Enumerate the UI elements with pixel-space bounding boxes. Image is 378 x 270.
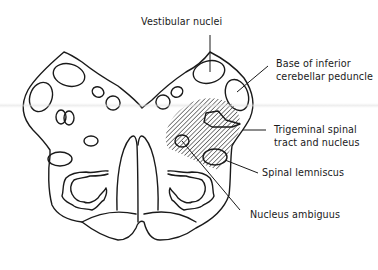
- label-spinal-lemniscus: Spinal lemniscus: [262, 167, 344, 179]
- label-trigeminal-line2: tract and nucleus: [274, 137, 360, 149]
- left-small-nucleus-1: [90, 85, 105, 99]
- basal-arc-left: [82, 212, 136, 222]
- right-inferior-olive: [168, 171, 214, 210]
- left-spinal-lemniscus: [48, 152, 72, 166]
- left-pyramid: [117, 136, 138, 222]
- right-vestibular-nucleus: [191, 57, 228, 87]
- left-inferior-cerebellar-peduncle: [26, 79, 57, 115]
- leader-base-icp: [237, 66, 268, 92]
- scan-artifact: [0, 103, 378, 108]
- right-small-nucleus-1: [169, 85, 184, 99]
- label-base-icp-line2: cerebellar peduncle: [276, 71, 373, 83]
- right-pyramid: [138, 136, 158, 210]
- left-small-nucleus-3: [84, 136, 98, 146]
- left-vestibular-nucleus: [51, 60, 88, 90]
- basal-arc-right: [144, 212, 196, 222]
- label-trigeminal-line1: Trigeminal spinal: [274, 124, 357, 136]
- label-base-icp-line1: Base of inferior: [276, 58, 351, 70]
- medulla-diagram: Vestibular nuclei Base of inferior cereb…: [0, 0, 378, 270]
- label-vestibular-nuclei: Vestibular nuclei: [141, 16, 222, 28]
- label-nucleus-ambiguus: Nucleus ambiguus: [250, 209, 340, 221]
- left-inferior-olive: [62, 171, 108, 210]
